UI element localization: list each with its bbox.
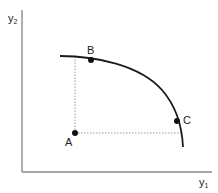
point-c bbox=[174, 118, 180, 124]
point-b-label: B bbox=[87, 44, 94, 56]
ppf-diagram: y2 y1 A B C bbox=[0, 0, 218, 193]
point-a-label: A bbox=[65, 136, 73, 148]
x-axis-label: y1 bbox=[199, 176, 209, 189]
point-c-label: C bbox=[183, 114, 191, 126]
point-a bbox=[72, 130, 78, 136]
point-b bbox=[88, 57, 94, 63]
y-axis-label: y2 bbox=[8, 12, 18, 25]
